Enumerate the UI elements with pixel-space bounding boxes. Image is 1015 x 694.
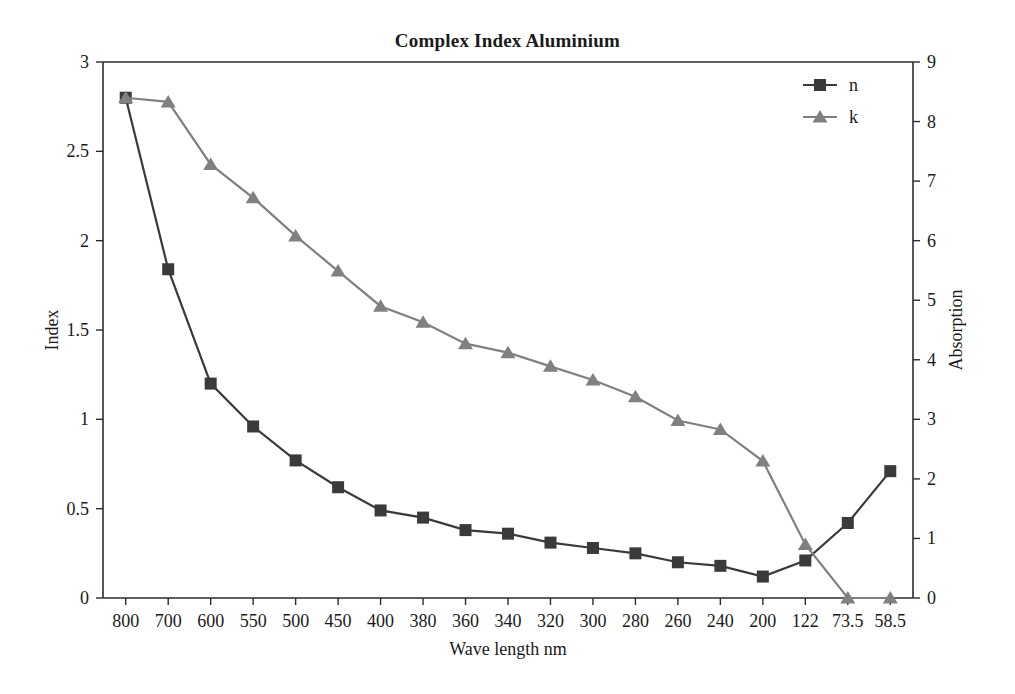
data-point-marker <box>587 542 599 554</box>
legend-item-n[interactable]: n <box>803 75 858 95</box>
data-point-marker <box>629 547 641 559</box>
data-point-marker <box>416 315 431 328</box>
x-tick-label: 320 <box>537 611 564 631</box>
y-tick-label: 2 <box>80 231 89 251</box>
x-tick-label: 340 <box>495 611 522 631</box>
y2-tick-label: 6 <box>927 231 936 251</box>
left-axis-ticks: 00.511.522.53 <box>67 52 104 608</box>
y-tick-label: 1 <box>80 409 89 429</box>
y-axis-title: Index <box>42 310 62 351</box>
y-tick-label: 0.5 <box>67 499 90 519</box>
data-point-marker <box>714 560 726 572</box>
data-point-marker <box>799 554 811 566</box>
y2-tick-label: 0 <box>927 588 936 608</box>
data-series-layer <box>118 91 898 604</box>
x-tick-label: 600 <box>197 611 224 631</box>
y-tick-label: 1.5 <box>67 320 90 340</box>
x-tick-label: 700 <box>155 611 182 631</box>
y-tick-label: 0 <box>80 588 89 608</box>
data-point-marker <box>417 512 429 524</box>
legend-label: k <box>849 107 858 127</box>
data-point-marker <box>203 157 218 170</box>
legend-marker <box>814 79 826 91</box>
x-tick-label: 122 <box>792 611 819 631</box>
right-axis-ticks: 0123456789 <box>913 52 936 608</box>
data-point-marker <box>205 378 217 390</box>
y2-axis-title: Absorption <box>946 290 966 371</box>
y2-tick-label: 5 <box>927 290 936 310</box>
x-tick-label: 260 <box>664 611 691 631</box>
legend-item-k[interactable]: k <box>803 107 858 127</box>
series-n <box>120 92 897 583</box>
x-tick-label: 450 <box>325 611 352 631</box>
data-point-marker <box>670 414 685 427</box>
x-tick-label: 400 <box>367 611 394 631</box>
x-tick-label: 360 <box>452 611 479 631</box>
chart-figure: Complex Index Aluminium 00.511.522.53 01… <box>0 0 1015 694</box>
data-point-marker <box>672 556 684 568</box>
data-point-marker <box>842 517 854 529</box>
data-point-marker <box>375 504 387 516</box>
y2-tick-label: 4 <box>927 350 936 370</box>
x-tick-label: 500 <box>282 611 309 631</box>
y2-tick-label: 3 <box>927 409 936 429</box>
data-point-marker <box>162 263 174 275</box>
y2-tick-label: 2 <box>927 469 936 489</box>
x-tick-label: 58.5 <box>875 611 907 631</box>
y-tick-label: 3 <box>80 52 89 72</box>
x-tick-label: 200 <box>749 611 776 631</box>
series-k <box>118 91 898 604</box>
plot-area: 00.511.522.53 0123456789 800700600550500… <box>0 0 1015 694</box>
x-tick-label: 280 <box>622 611 649 631</box>
data-point-marker <box>628 390 643 403</box>
series-line <box>126 98 891 577</box>
y2-tick-label: 9 <box>927 52 936 72</box>
data-point-marker <box>798 537 813 550</box>
x-tick-label: 800 <box>112 611 139 631</box>
x-tick-label: 240 <box>707 611 734 631</box>
x-axis-ticks: 8007006005505004504003803603403203002802… <box>112 598 906 631</box>
data-point-marker <box>332 481 344 493</box>
data-point-marker <box>290 454 302 466</box>
y2-tick-label: 1 <box>927 528 936 548</box>
data-point-marker <box>544 537 556 549</box>
x-tick-label: 73.5 <box>832 611 864 631</box>
y-tick-label: 2.5 <box>67 141 90 161</box>
y2-tick-label: 8 <box>927 112 936 132</box>
y2-tick-label: 7 <box>927 171 936 191</box>
data-point-marker <box>502 528 514 540</box>
x-axis-title: Wave length nm <box>449 639 567 659</box>
x-tick-label: 550 <box>240 611 267 631</box>
data-point-marker <box>884 465 896 477</box>
data-point-marker <box>458 337 473 350</box>
data-point-marker <box>247 420 259 432</box>
chart-legend: nk <box>803 75 858 127</box>
data-point-marker <box>757 571 769 583</box>
legend-label: n <box>849 75 858 95</box>
x-tick-label: 380 <box>410 611 437 631</box>
data-point-marker <box>460 524 472 536</box>
x-tick-label: 300 <box>579 611 606 631</box>
